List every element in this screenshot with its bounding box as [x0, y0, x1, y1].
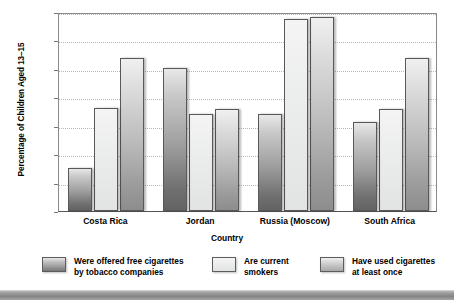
- bar: [68, 168, 92, 211]
- bar: [379, 109, 403, 211]
- footer-bar: [0, 290, 454, 300]
- bar: [258, 114, 282, 211]
- x-axis-tick-label: Costa Rica: [58, 216, 153, 226]
- bar: [284, 19, 308, 211]
- legend-item: Have used cigarettes at least once: [320, 256, 435, 277]
- legend-item: Were offered free cigarettes by tobacco …: [42, 256, 184, 277]
- x-axis-tick-label: Jordan: [153, 216, 248, 226]
- plot-area: [58, 13, 437, 212]
- bar: [94, 108, 118, 211]
- y-axis-tick-mark: [54, 184, 58, 185]
- y-axis-tick-mark: [54, 41, 58, 42]
- bar: [120, 58, 144, 212]
- gridline: [59, 14, 436, 15]
- bar: [215, 109, 239, 211]
- y-axis-tick-mark: [54, 70, 58, 71]
- legend-swatch: [212, 257, 236, 272]
- x-axis-tick-label: South Africa: [342, 216, 437, 226]
- legend-label: Are current smokers: [244, 256, 289, 277]
- y-axis-tick-mark: [54, 155, 58, 156]
- chart-legend: Were offered free cigarettes by tobacco …: [0, 256, 454, 290]
- y-axis-tick-mark: [54, 127, 58, 128]
- gridline: [59, 42, 436, 43]
- gridline: [59, 99, 436, 100]
- bar: [405, 58, 429, 212]
- legend-label: Have used cigarettes at least once: [352, 256, 435, 277]
- bar: [310, 17, 334, 211]
- x-axis-tick-label: Russia (Moscow): [248, 216, 343, 226]
- bar-chart-figure: Percentage of Children Aged 13–15 051015…: [0, 0, 454, 305]
- bar: [189, 114, 213, 211]
- y-axis-title: Percentage of Children Aged 13–15: [17, 15, 26, 205]
- x-axis-title: Country: [0, 233, 454, 243]
- legend-swatch: [320, 257, 344, 272]
- legend-swatch: [42, 257, 66, 272]
- bar: [353, 122, 377, 211]
- legend-label: Were offered free cigarettes by tobacco …: [74, 256, 184, 277]
- y-axis-tick-mark: [54, 13, 58, 14]
- legend-item: Are current smokers: [212, 256, 289, 277]
- gridline: [59, 71, 436, 72]
- y-axis-tick-mark: [54, 98, 58, 99]
- bar: [163, 68, 187, 211]
- y-axis-tick-mark: [54, 212, 58, 213]
